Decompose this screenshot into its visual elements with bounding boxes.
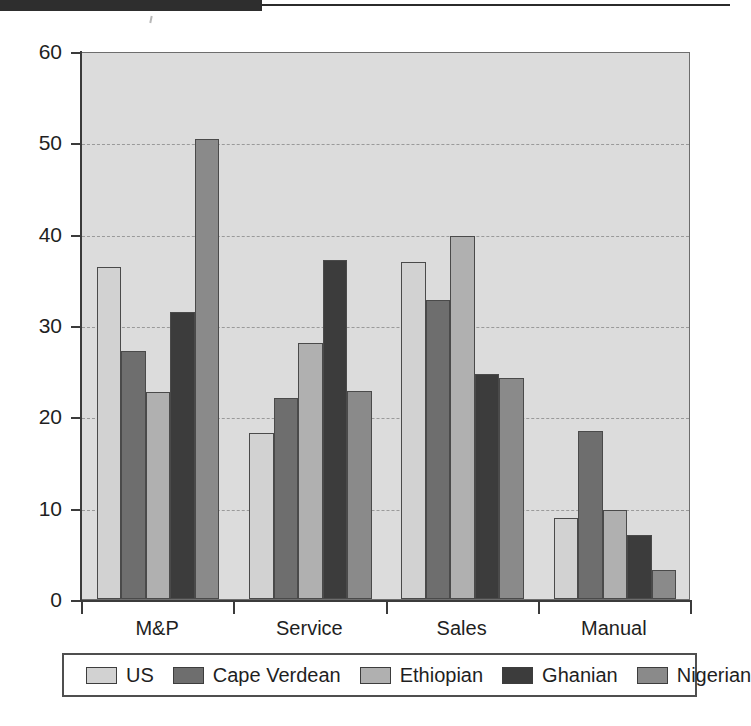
x-tick-3: [538, 602, 540, 614]
bar-m-p-ethiopian: [146, 392, 171, 599]
x-axis-label-sales: Sales: [386, 617, 538, 639]
gridline-40: [82, 236, 689, 237]
bar-manual-us: [554, 518, 579, 599]
bar-service-ethiopian: [298, 343, 323, 599]
y-axis-label-30: 30: [39, 315, 62, 336]
legend-label: Ghanian: [542, 665, 618, 686]
bar-sales-us: [401, 262, 426, 599]
bar-service-ghanian: [323, 260, 348, 599]
legend-label: Ethiopian: [400, 665, 483, 686]
legend-swatch-icon-ethiopian: [360, 667, 391, 684]
y-axis-label-20: 20: [39, 406, 62, 427]
bar-m-p-cape-verdean: [121, 351, 146, 599]
y-axis-label-0: 0: [50, 589, 62, 610]
bar-manual-ethiopian: [603, 510, 628, 600]
y-axis-label-50: 50: [39, 132, 62, 153]
legend-item-nigerian[interactable]: Nigerian: [637, 665, 751, 686]
gridline-50: [82, 144, 689, 145]
legend-swatch-icon-us: [86, 667, 117, 684]
legend-swatch-icon-ghanian: [502, 667, 533, 684]
plot-area: [81, 52, 690, 600]
bar-sales-cape-verdean: [426, 300, 451, 599]
x-axis-label-m-p: M&P: [81, 617, 233, 639]
y-tick-60: [71, 52, 82, 54]
bar-manual-nigerian: [652, 570, 677, 599]
bar-manual-ghanian: [627, 535, 652, 599]
x-tick-4: [690, 602, 692, 614]
legend-item-ghanian[interactable]: Ghanian: [502, 665, 618, 686]
x-axis-label-service: Service: [233, 617, 385, 639]
x-tick-0: [81, 602, 83, 614]
legend-item-cape-verdean[interactable]: Cape Verdean: [173, 665, 341, 686]
bar-m-p-ghanian: [170, 312, 195, 599]
bar-m-p-nigerian: [195, 139, 220, 599]
bar-sales-nigerian: [499, 378, 524, 599]
chart-legend: USCape VerdeanEthiopianGhanianNigerian: [62, 653, 697, 697]
y-tick-20: [71, 417, 82, 419]
legend-swatch-icon-cape-verdean: [173, 667, 204, 684]
x-tick-1: [233, 602, 235, 614]
y-axis-label-10: 10: [39, 498, 62, 519]
legend-item-us[interactable]: US: [86, 665, 154, 686]
bar-service-cape-verdean: [274, 398, 299, 599]
bar-manual-cape-verdean: [578, 431, 603, 599]
y-tick-30: [71, 326, 82, 328]
bar-service-us: [249, 433, 274, 599]
bar-sales-ghanian: [475, 374, 500, 599]
x-axis-label-manual: Manual: [538, 617, 690, 639]
x-tick-2: [386, 602, 388, 614]
legend-item-ethiopian[interactable]: Ethiopian: [360, 665, 483, 686]
legend-label: US: [126, 665, 154, 686]
bar-service-nigerian: [347, 391, 372, 599]
legend-label: Nigerian: [677, 665, 751, 686]
y-tick-50: [71, 143, 82, 145]
bar-m-p-us: [97, 267, 122, 599]
bar-sales-ethiopian: [450, 236, 475, 599]
y-axis-label-40: 40: [39, 224, 62, 245]
y-tick-40: [71, 235, 82, 237]
y-axis-label-60: 60: [39, 41, 62, 62]
y-tick-10: [71, 509, 82, 511]
legend-swatch-icon-nigerian: [637, 667, 668, 684]
legend-label: Cape Verdean: [213, 665, 341, 686]
